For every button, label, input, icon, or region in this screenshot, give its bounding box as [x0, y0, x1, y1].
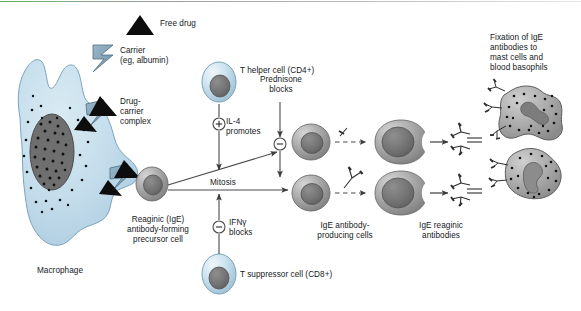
t-suppressor-cell	[202, 254, 236, 294]
il4-plus-badge	[213, 118, 225, 130]
legend-carrier-label-line2: (eg, albumin)	[120, 56, 168, 66]
fixation-label-line4: blood basophils	[490, 63, 548, 73]
fixation-label-line2: antibodies to	[490, 43, 537, 53]
ige-producing-cells-label-line2: producing cells	[300, 231, 390, 241]
precursor-cell-label-line1: Reaginic (IgE)	[103, 215, 213, 225]
ifn-gamma-label-line2: blocks	[229, 228, 253, 238]
prednisone-minus-badge	[274, 138, 286, 150]
fixation-label-line3: mast cells and	[490, 53, 543, 63]
mast-cell	[484, 79, 562, 140]
prednisone-label-line1: Prednisone	[248, 75, 314, 85]
reaginic-precursor-cell	[136, 167, 168, 201]
ige-producing-cells-label-line1: IgE antibody-	[300, 221, 390, 231]
ifn-gamma-label-line1: IFNγ	[229, 218, 246, 228]
fixation-label-line1: Fixation of IgE	[490, 33, 543, 43]
macrophage-label: Macrophage	[37, 266, 83, 276]
drug-carrier-complex-label-line1: Drug-	[120, 97, 141, 107]
divided-cell-lower	[292, 175, 330, 211]
precursor-cell-label-line3: precursor cell	[103, 235, 213, 245]
ige-antibody-cluster-lower	[451, 174, 482, 206]
mitosis-label: Mitosis	[208, 178, 238, 188]
il4-label-line1: IL-4	[226, 117, 240, 127]
legend-free-drug-icon	[126, 15, 154, 35]
precursor-cell-label-line2: antibody-forming	[103, 225, 213, 235]
legend-free-drug-label: Free drug	[160, 19, 196, 29]
t-helper-cell	[202, 62, 236, 102]
ifn-gamma-minus-badge	[213, 221, 225, 233]
ige-producing-cell-upper	[375, 120, 432, 164]
ige-reaginic-antibodies-label-line1: IgE reaginic	[398, 221, 484, 231]
legend-carrier-label-line1: Carrier	[120, 46, 145, 56]
drug-carrier-complex-label-line2: carrier	[120, 107, 144, 117]
t-suppressor-cell-label: T suppressor cell (CD8+)	[240, 270, 332, 280]
drug-carrier-complex-label-line3: complex	[120, 117, 151, 127]
il4-label-line2: promotes	[226, 127, 261, 137]
ige-producing-cell-lower	[375, 171, 432, 215]
diagram-canvas: Free drug Carrier (eg, albumin) Drug- ca…	[0, 0, 581, 311]
ige-reaginic-antibodies-label-line2: antibodies	[398, 231, 484, 241]
legend-carrier-icon	[93, 45, 113, 72]
antibody-glyph-transition	[344, 167, 363, 188]
ige-antibody-cluster-upper	[451, 123, 482, 155]
basophil-cell	[489, 148, 561, 198]
prednisone-label-line2: blocks	[248, 85, 314, 95]
antibody-glyph-upper	[339, 128, 347, 136]
divided-cell-upper	[292, 124, 330, 160]
